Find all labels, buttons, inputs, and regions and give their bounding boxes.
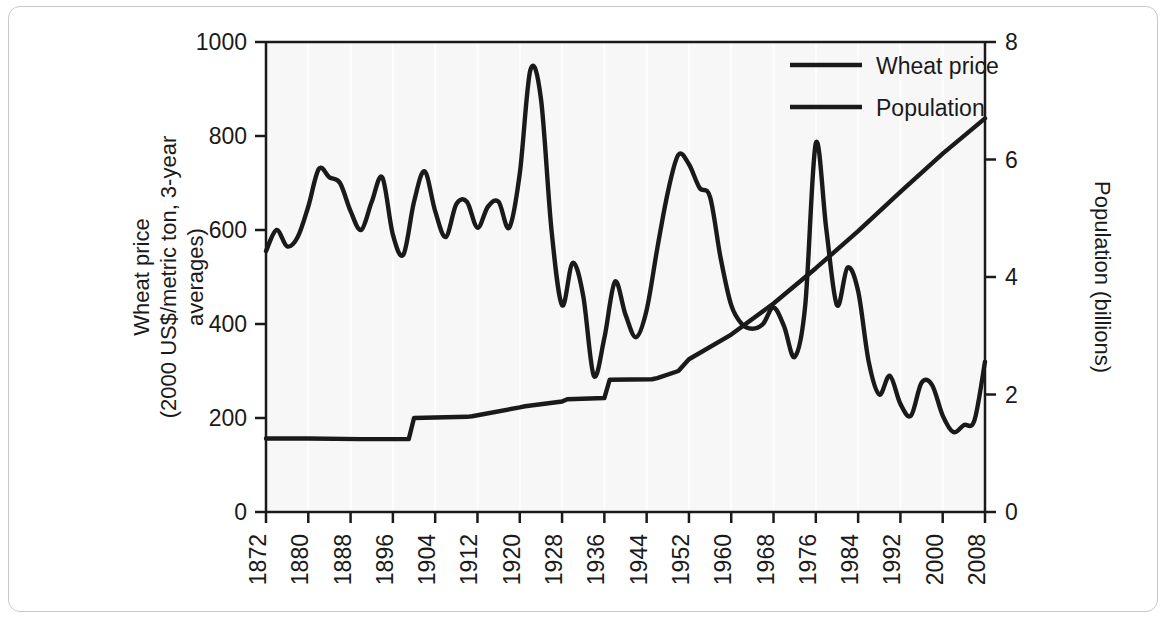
wheat-price-population-chart: 02004006008001000 02468 1872188018881896…	[0, 0, 1169, 623]
y-axis-title-line-2: (2000 US$/metric ton, 3-year	[156, 136, 181, 418]
x-axis-tick-label: 2008	[964, 534, 990, 585]
y-axis-right-tick-label: 2	[1005, 382, 1018, 408]
legend-label-wheat-price: Wheat price	[876, 53, 999, 79]
y-axis-left-tick-label: 200	[209, 405, 247, 431]
y-axis-right-title: Population (billions)	[1090, 181, 1115, 373]
y-axis-title-line-3: averages)	[183, 228, 208, 326]
y-axis-left-title: Wheat price (2000 US$/metric ton, 3-year…	[129, 136, 208, 418]
x-axis-tick-label: 1984	[837, 534, 863, 585]
x-axis-tick-label: 1880	[287, 534, 313, 585]
x-axis-tick-label: 1968	[753, 534, 779, 585]
x-axis-tick-label: 1920	[499, 534, 525, 585]
legend-label-population: Population	[876, 95, 985, 121]
x-axis-tick-label: 1992	[879, 534, 905, 585]
x-axis-tick-label: 1960	[710, 534, 736, 585]
y-axis-right-tick-label: 4	[1005, 264, 1018, 290]
y-axis-left-tick-label: 1000	[196, 29, 247, 55]
x-axis-tick-label: 1872	[245, 534, 271, 585]
y-axis-title-line-1: Wheat price	[129, 218, 154, 335]
chart-container: 02004006008001000 02468 1872188018881896…	[0, 0, 1169, 623]
x-axis-tick-label: 1896	[372, 534, 398, 585]
y-axis-left-tick-label: 600	[209, 217, 247, 243]
y-axis-right-ticks: 02468	[985, 29, 1018, 525]
x-axis-tick-label: 1936	[583, 534, 609, 585]
x-axis-tick-label: 1976	[795, 534, 821, 585]
x-axis-ticks: 1872188018881896190419121920192819361944…	[245, 512, 990, 585]
y-axis-right-tick-label: 6	[1005, 147, 1018, 173]
y-axis-left-tick-label: 800	[209, 123, 247, 149]
x-axis-tick-label: 1912	[456, 534, 482, 585]
x-axis-tick-label: 2000	[922, 534, 948, 585]
y-axis-left-tick-label: 0	[234, 499, 247, 525]
x-axis-tick-label: 1888	[330, 534, 356, 585]
x-axis-tick-label: 1928	[541, 534, 567, 585]
x-axis-tick-label: 1904	[414, 534, 440, 585]
x-axis-tick-label: 1944	[626, 534, 652, 585]
y-axis-right-tick-label: 0	[1005, 499, 1018, 525]
y-axis-right-tick-label: 8	[1005, 29, 1018, 55]
y-axis-left-tick-label: 400	[209, 311, 247, 337]
x-axis-tick-label: 1952	[668, 534, 694, 585]
